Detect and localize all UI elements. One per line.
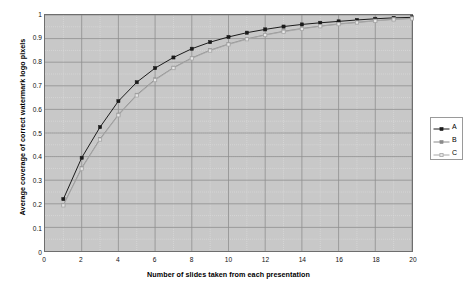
legend-item-B: B	[432, 133, 461, 146]
x-tick-label: 12	[253, 256, 277, 263]
y-axis-title: Average coverage of correct watermark lo…	[18, 39, 27, 216]
chart-figure: 00.10.20.30.40.50.60.70.80.91 0246810121…	[0, 0, 475, 295]
x-tick-label: 8	[180, 256, 204, 263]
x-tick-label: 2	[69, 256, 93, 263]
x-tick-label: 18	[364, 256, 388, 263]
x-axis-tick-labels: 02468101214161820	[0, 0, 475, 295]
x-tick-label: 4	[106, 256, 130, 263]
legend-label: A	[451, 123, 457, 131]
legend-item-C: C	[432, 146, 461, 159]
legend-marker-icon	[432, 121, 451, 133]
legend-label: C	[451, 149, 457, 157]
x-tick-label: 16	[327, 256, 351, 263]
legend-marker-icon	[432, 147, 451, 159]
legend-item-A: A	[432, 120, 461, 133]
x-tick-label: 14	[290, 256, 314, 263]
y-axis-title-container: Average coverage of correct watermark lo…	[11, 5, 29, 249]
legend-label: B	[451, 136, 457, 144]
x-axis-title: Number of slides taken from each present…	[44, 270, 413, 279]
x-tick-label: 0	[32, 256, 56, 263]
x-tick-label: 20	[401, 256, 425, 263]
x-tick-label: 6	[143, 256, 167, 263]
legend-marker-icon	[432, 134, 451, 146]
x-tick-label: 10	[217, 256, 241, 263]
legend: ABC	[430, 117, 463, 160]
